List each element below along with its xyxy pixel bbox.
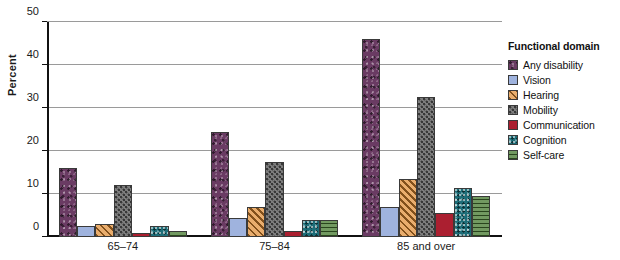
y-tick-label-20: 20: [27, 134, 39, 146]
legend-swatch-hearing: [508, 90, 518, 100]
legend-title: Functional domain: [508, 40, 616, 52]
legend-swatch-communication: [508, 120, 518, 130]
legend-item-self-care: Self-care: [508, 147, 616, 162]
legend-swatch-mobility: [508, 105, 518, 115]
bar-75-84-communication: [284, 231, 302, 237]
y-axis-title: Percent: [6, 26, 18, 96]
bar-85-and-over-any-disability: [362, 39, 380, 237]
bar-75-84-mobility: [265, 162, 283, 237]
legend-label-mobility: Mobility: [523, 104, 558, 116]
bar-65-74-mobility: [114, 185, 132, 237]
legend-item-mobility: Mobility: [508, 102, 616, 117]
legend-label-any-disability: Any disability: [523, 59, 583, 71]
legend-item-any-disability: Any disability: [508, 57, 616, 72]
y-tick-label-40: 40: [27, 48, 39, 60]
bar-75-84-vision: [229, 218, 247, 237]
legend-item-communication: Communication: [508, 117, 616, 132]
bar-group-65-74: [59, 22, 187, 237]
legend-label-cognition: Cognition: [523, 134, 566, 146]
legend-label-communication: Communication: [523, 119, 595, 131]
bar-75-84-any-disability: [211, 132, 229, 237]
legend-label-hearing: Hearing: [523, 89, 559, 101]
x-axis-label-85-and-over: 85 and over: [397, 240, 455, 252]
bar-65-74-any-disability: [59, 168, 77, 237]
bar-85-and-over-hearing: [399, 179, 417, 237]
legend: Functional domain Any disabilityVisionHe…: [508, 40, 616, 162]
bar-65-74-vision: [77, 226, 95, 237]
bar-65-74-communication: [132, 233, 150, 237]
bar-85-and-over-cognition: [454, 188, 472, 237]
legend-swatch-vision: [508, 75, 518, 85]
plot-area: 01020304050: [47, 22, 502, 237]
legend-item-cognition: Cognition: [508, 132, 616, 147]
legend-swatch-self-care: [508, 150, 518, 160]
legend-label-self-care: Self-care: [523, 149, 564, 161]
y-tick-label-30: 30: [27, 91, 39, 103]
x-axis-label-75-84: 75–84: [259, 240, 290, 252]
bar-group-75-84: [211, 22, 339, 237]
x-axis-label-65-74: 65–74: [108, 240, 139, 252]
bar-85-and-over-self-care: [472, 196, 490, 237]
bar-75-84-hearing: [247, 207, 265, 237]
legend-items: Any disabilityVisionHearingMobilityCommu…: [508, 57, 616, 162]
bar-85-and-over-vision: [380, 207, 398, 237]
y-tick-label-10: 10: [27, 177, 39, 189]
legend-label-vision: Vision: [523, 74, 551, 86]
bar-75-84-self-care: [320, 220, 338, 237]
bar-85-and-over-communication: [435, 213, 453, 237]
bar-65-74-self-care: [169, 231, 187, 237]
bar-75-84-cognition: [302, 220, 320, 237]
legend-swatch-any-disability: [508, 60, 518, 70]
bar-85-and-over-mobility: [417, 97, 435, 237]
y-tick-label-0: 0: [33, 220, 39, 232]
bar-65-74-hearing: [95, 224, 113, 237]
bars-layer: [47, 22, 502, 237]
legend-swatch-cognition: [508, 135, 518, 145]
x-axis-labels: 65–7475–8485 and over: [47, 240, 502, 258]
bar-group-85-and-over: [362, 22, 490, 237]
bar-chart: Percent 01020304050 65–7475–8485 and ove…: [0, 0, 620, 260]
y-tick-label-50: 50: [27, 5, 39, 17]
bar-65-74-cognition: [150, 226, 168, 237]
legend-item-hearing: Hearing: [508, 87, 616, 102]
legend-item-vision: Vision: [508, 72, 616, 87]
